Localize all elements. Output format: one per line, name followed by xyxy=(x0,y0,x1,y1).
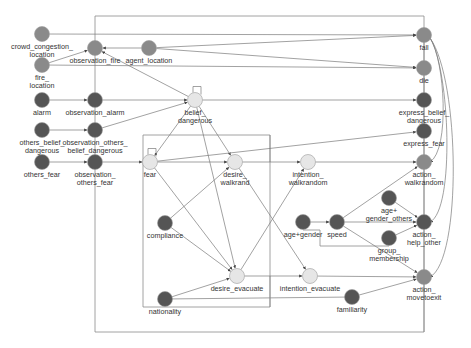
node-observation_alarm: observation_alarm xyxy=(65,93,124,118)
edge-crowd_congestion_location-to-fall xyxy=(49,34,416,35)
edge-belief_dangerous-to-desire_evacuate xyxy=(197,107,235,268)
node-observation_others_fear: observation_others_fear xyxy=(74,155,116,188)
node-circle xyxy=(35,58,50,73)
node-desire_evacuate: desire_evacuate xyxy=(211,269,264,294)
node-circle xyxy=(417,61,432,76)
node-label: others_fear xyxy=(24,170,61,179)
node-label: speed xyxy=(327,230,347,239)
node-label: nationality xyxy=(149,307,182,316)
node-belief_dangerous: belief_dangerous xyxy=(178,93,212,126)
node-circle xyxy=(296,215,311,230)
node-action_help_other: action_help_other xyxy=(407,215,442,248)
node-circle xyxy=(35,93,50,108)
node-group_membership: group_membership xyxy=(369,231,409,264)
node-circle xyxy=(417,215,432,230)
node-label: fear xyxy=(144,170,157,179)
node-label: walkrandom xyxy=(404,178,444,187)
edge-agent_location-to-die xyxy=(156,49,416,68)
node-label: intention_evacuate xyxy=(280,284,340,293)
node-alarm: alarm xyxy=(33,93,51,118)
node-others_fear: others_fear xyxy=(24,155,61,180)
edge-fear-to-express_fear xyxy=(157,132,416,161)
node-speed: speed xyxy=(327,215,347,240)
node-circle xyxy=(301,155,316,170)
node-circle xyxy=(417,270,432,285)
node-label: help_other xyxy=(407,238,442,247)
node-circle xyxy=(142,41,157,56)
edge-intention_evacuate-to-action_movetoexit xyxy=(317,276,416,277)
node-circle xyxy=(35,123,50,138)
node-circle xyxy=(417,124,432,139)
node-label: observation_fire xyxy=(69,56,120,65)
node-others_belief_dangerous: others_belief_dangerous xyxy=(19,123,65,156)
node-label: compliance xyxy=(147,231,183,240)
node-circle xyxy=(88,93,103,108)
node-label: die xyxy=(419,76,429,85)
node-express_belief_dangerous: express_belief_dangerous xyxy=(399,93,450,126)
node-circle xyxy=(158,216,173,231)
node-label: dangerous xyxy=(25,146,59,155)
node-circle xyxy=(88,41,103,56)
node-circle xyxy=(417,28,432,43)
causal-network-diagram: crowd_congestion_locationfire_locationob… xyxy=(0,0,471,348)
edge-fire_location-to-die xyxy=(49,65,416,68)
node-circle xyxy=(88,123,103,138)
nationality-line xyxy=(165,297,352,299)
node-express_fear: express_fear xyxy=(403,124,445,149)
node-action_movetoexit: action_movetoexit xyxy=(407,270,442,303)
node-circle xyxy=(382,231,397,246)
node-label: walkrandom xyxy=(288,178,328,187)
node-circle xyxy=(417,93,432,108)
node-label: fall xyxy=(419,43,429,52)
node-label: location xyxy=(30,81,55,90)
node-label: walkrand xyxy=(220,178,250,187)
node-circle xyxy=(382,191,397,206)
edge-compliance-to-desire_walkrand xyxy=(171,167,229,218)
node-observation_others_belief_dangerous: observation_others_belief_dangerous xyxy=(62,123,128,156)
edge-agent_location-to-fall xyxy=(156,35,416,47)
node-familiarity: familiarity xyxy=(337,290,368,315)
node-label: express_fear xyxy=(403,139,445,148)
node-circle xyxy=(35,27,50,42)
node-label: dangerous xyxy=(178,116,212,125)
node-label: belief_dangerous xyxy=(67,146,123,155)
node-circle xyxy=(330,215,345,230)
node-fear: fear xyxy=(143,155,158,180)
node-circle xyxy=(345,290,360,305)
node-label: age+gender xyxy=(284,230,323,239)
node-compliance: compliance xyxy=(147,216,183,241)
node-label: desire_evacuate xyxy=(211,284,264,293)
node-circle xyxy=(88,155,103,170)
node-label: membership xyxy=(369,254,409,263)
node-circle xyxy=(35,155,50,170)
node-circle xyxy=(188,93,203,108)
nodes: crowd_congestion_locationfire_locationob… xyxy=(11,27,450,317)
node-age_gender_others: age+gender_others xyxy=(366,191,413,224)
node-label: observation_alarm xyxy=(65,108,124,117)
node-label: familiarity xyxy=(337,305,368,314)
node-observation_fire: observation_fire xyxy=(69,41,120,66)
node-label: others_fear xyxy=(77,178,114,187)
node-action_walkrandom: action_walkrandom xyxy=(404,155,444,188)
node-intention_evacuate: intention_evacuate xyxy=(280,269,340,294)
node-die: die xyxy=(417,61,432,86)
node-circle xyxy=(303,269,318,284)
node-intention_walkrandom: intention_walkrandom xyxy=(288,155,328,188)
node-label: movetoexit xyxy=(407,293,442,302)
node-age_gender: age+gender xyxy=(284,215,323,240)
node-desire_walkrand: desire_walkrand xyxy=(220,155,250,188)
node-circle xyxy=(417,155,432,170)
node-label: agent_location xyxy=(126,56,173,65)
node-circle xyxy=(143,155,158,170)
node-circle xyxy=(228,155,243,170)
node-circle xyxy=(158,292,173,307)
node-fall: fall xyxy=(417,28,432,53)
fall-to-action-help-other xyxy=(430,38,447,222)
node-label: gender_others xyxy=(366,214,413,223)
node-circle xyxy=(230,269,245,284)
node-agent_location: agent_location xyxy=(126,41,173,66)
node-label: alarm xyxy=(33,108,51,117)
node-crowd_congestion_location: crowd_congestion_location xyxy=(11,27,74,60)
